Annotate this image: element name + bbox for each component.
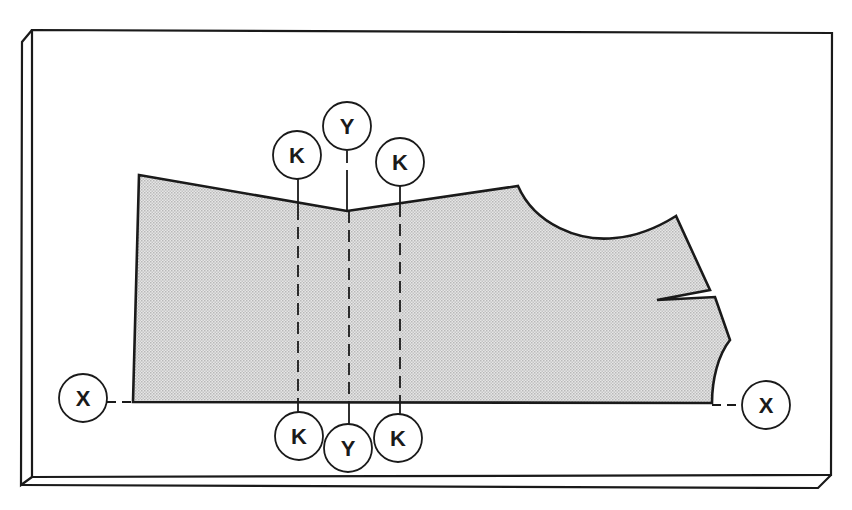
label-k-top-left: K bbox=[273, 131, 321, 179]
label-text: Y bbox=[341, 436, 356, 461]
label-y-top: Y bbox=[323, 102, 371, 150]
label-text: K bbox=[291, 424, 307, 449]
board-side-edge bbox=[21, 30, 32, 485]
label-text: X bbox=[759, 393, 774, 418]
label-text: K bbox=[392, 150, 408, 175]
label-x-left: X bbox=[59, 374, 107, 422]
label-k-bottom-left: K bbox=[275, 412, 323, 460]
label-k-top-right: K bbox=[376, 138, 424, 186]
label-text: Y bbox=[340, 114, 355, 139]
label-k-bottom-right: K bbox=[374, 414, 422, 462]
label-text: K bbox=[390, 426, 406, 451]
label-x-right: X bbox=[742, 381, 790, 429]
pattern-layout-diagram: K Y K K Y K X X bbox=[0, 0, 852, 510]
label-y-bottom: Y bbox=[324, 424, 372, 472]
pattern-piece bbox=[133, 175, 730, 403]
label-text: X bbox=[76, 386, 91, 411]
label-text: K bbox=[289, 143, 305, 168]
